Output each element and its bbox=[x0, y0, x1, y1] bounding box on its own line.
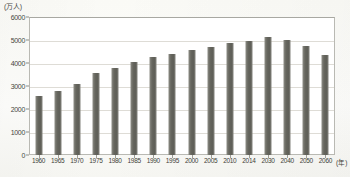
x-axis-tick-mark bbox=[115, 155, 116, 158]
x-axis-tick-mark bbox=[211, 155, 212, 158]
y-axis-tick-label: 2000 bbox=[0, 106, 25, 113]
bar-slot bbox=[67, 17, 86, 155]
bar bbox=[226, 43, 233, 155]
x-axis-tick-mark bbox=[192, 155, 193, 158]
x-axis-tick-mark bbox=[230, 155, 231, 158]
x-axis-tick-label: 2030 bbox=[261, 157, 274, 164]
x-axis-tick-mark bbox=[268, 155, 269, 158]
bar bbox=[92, 73, 99, 155]
x-axis-tick-label: 1970 bbox=[70, 157, 83, 164]
bar bbox=[188, 50, 195, 155]
bar bbox=[112, 68, 119, 155]
bar bbox=[150, 57, 157, 155]
x-axis-tick-mark bbox=[287, 155, 288, 158]
bar-slot bbox=[239, 17, 258, 155]
bar bbox=[207, 47, 214, 155]
x-axis-tick-mark bbox=[39, 155, 40, 158]
bar bbox=[322, 55, 329, 155]
x-axis-tick-mark bbox=[325, 155, 326, 158]
y-axis-tick-label: 6000 bbox=[0, 14, 25, 21]
bar-slot bbox=[278, 17, 297, 155]
bar-slot bbox=[201, 17, 220, 155]
x-axis-unit-label: (年) bbox=[336, 157, 347, 167]
x-axis-tick-label: 2014 bbox=[242, 157, 255, 164]
bar-slot bbox=[182, 17, 201, 155]
x-axis-tick-label: 2050 bbox=[300, 157, 313, 164]
x-axis-tick-mark bbox=[172, 155, 173, 158]
x-axis-tick-label: 2060 bbox=[319, 157, 332, 164]
x-axis-tick-label: 2040 bbox=[281, 157, 294, 164]
y-axis-unit-label: (万人) bbox=[4, 1, 22, 11]
x-axis-tick-label: 2000 bbox=[185, 157, 198, 164]
bar bbox=[54, 91, 61, 155]
x-axis-tick-label: 1990 bbox=[147, 157, 160, 164]
bar-slot bbox=[259, 17, 278, 155]
bar bbox=[35, 96, 42, 155]
x-axis-tick-label: 2005 bbox=[204, 157, 217, 164]
y-axis-tick-label: 4000 bbox=[0, 60, 25, 67]
bar bbox=[303, 46, 310, 155]
bar-slot bbox=[220, 17, 239, 155]
y-axis-tick-label: 0 bbox=[0, 152, 25, 159]
bar bbox=[245, 41, 252, 155]
bar-slot bbox=[48, 17, 67, 155]
y-axis-tick-label: 5000 bbox=[0, 37, 25, 44]
bar-slot bbox=[163, 17, 182, 155]
x-axis-tick-label: 2010 bbox=[223, 157, 236, 164]
x-axis-tick-label: 1985 bbox=[128, 157, 141, 164]
x-axis-tick-label: 1975 bbox=[89, 157, 102, 164]
x-axis-tick-mark bbox=[249, 155, 250, 158]
y-axis-tick-label: 3000 bbox=[0, 83, 25, 90]
x-axis-tick-mark bbox=[153, 155, 154, 158]
bar-slot bbox=[297, 17, 316, 155]
bar-slot bbox=[86, 17, 105, 155]
y-axis-tick-label: 1000 bbox=[0, 129, 25, 136]
x-axis-tick-mark bbox=[134, 155, 135, 158]
bar-slot bbox=[106, 17, 125, 155]
x-axis-tick-mark bbox=[58, 155, 59, 158]
population-bar-chart: (万人) 0100020003000400050006000 196019651… bbox=[0, 0, 350, 177]
x-axis-tick-label: 1995 bbox=[166, 157, 179, 164]
x-axis-tick-mark bbox=[77, 155, 78, 158]
bar-slot bbox=[125, 17, 144, 155]
bar bbox=[284, 40, 291, 155]
bar bbox=[265, 37, 272, 155]
bar bbox=[169, 54, 176, 155]
bar bbox=[73, 84, 80, 155]
x-axis-tick-label: 1980 bbox=[108, 157, 121, 164]
bar-series bbox=[29, 17, 335, 155]
x-axis-tick-mark bbox=[96, 155, 97, 158]
x-axis-tick-mark bbox=[306, 155, 307, 158]
x-axis-tick-label: 1965 bbox=[51, 157, 64, 164]
x-axis-tick-label: 1960 bbox=[32, 157, 45, 164]
bar-slot bbox=[144, 17, 163, 155]
bar-slot bbox=[29, 17, 48, 155]
bar-slot bbox=[316, 17, 335, 155]
bar bbox=[131, 62, 138, 155]
